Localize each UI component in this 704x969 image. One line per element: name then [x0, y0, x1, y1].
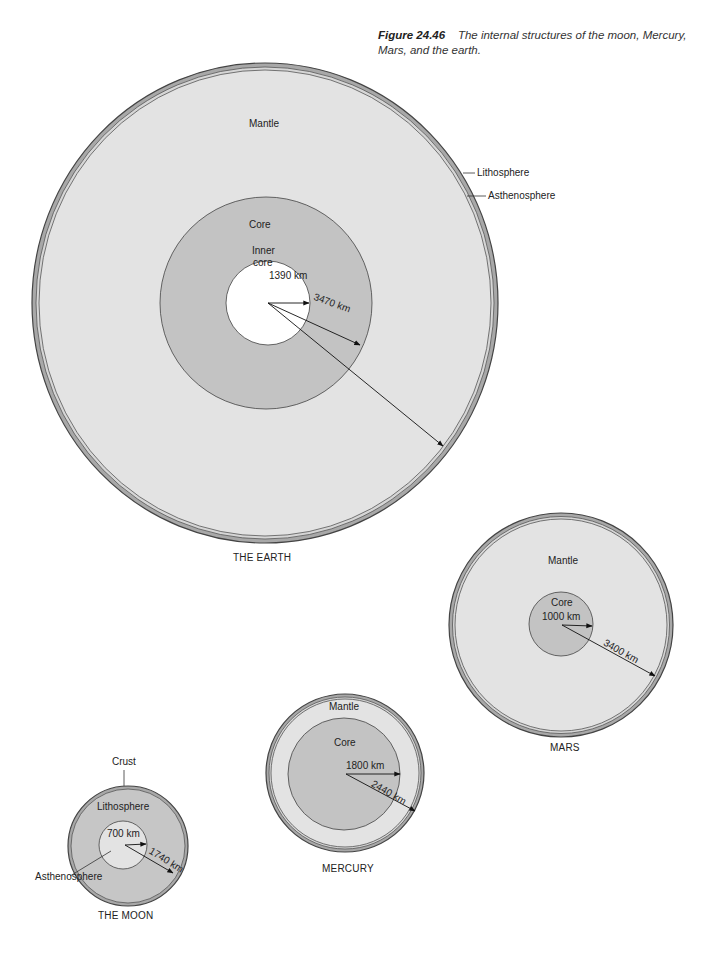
mercury-diagram [266, 694, 424, 852]
moon-crust-label: Crust [112, 756, 136, 767]
mercury-mantle-label: Mantle [329, 701, 359, 712]
mars-core-radius-label: 1000 km [542, 611, 580, 622]
earth-asthenosphere-label: Asthenosphere [488, 190, 555, 201]
moon-title: THE MOON [98, 910, 154, 921]
mercury-core-label: Core [334, 737, 356, 748]
mercury-title: MERCURY [322, 863, 374, 874]
mars-diagram [449, 513, 673, 737]
moon-lithosphere-label: Lithosphere [97, 801, 149, 812]
mars-title: MARS [550, 742, 580, 753]
earth-title: THE EARTH [233, 552, 291, 563]
mercury-core-radius-label: 1800 km [346, 760, 384, 771]
mars-core-label: Core [551, 597, 573, 608]
mars-mantle-label: Mantle [548, 555, 578, 566]
moon-asthenosphere-label: Asthenosphere [35, 871, 102, 882]
earth-inner-core-label-1: Inner [252, 245, 275, 256]
moon-inner-radius-label: 700 km [107, 828, 140, 839]
earth-diagram [32, 63, 498, 543]
earth-inner-radius-label: 1390 km [269, 270, 307, 281]
planet-diagrams [0, 0, 704, 969]
earth-inner-core-label-2: core [253, 257, 272, 268]
earth-core-label: Core [249, 219, 271, 230]
earth-lithosphere-label: Lithosphere [477, 167, 529, 178]
earth-mantle-label: Mantle [249, 118, 279, 129]
